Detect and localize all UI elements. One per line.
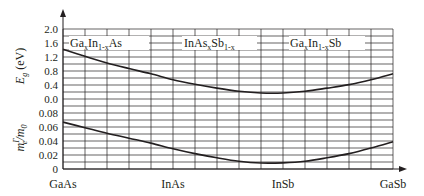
y-tick: 0.06: [39, 121, 59, 133]
x-label-gasb: GaSb: [380, 177, 407, 191]
x-label-gaas: GaAs: [49, 177, 77, 191]
y-tick: 0: [53, 163, 59, 175]
y-tick: 0.4: [44, 79, 58, 91]
y-tick: 0.02: [39, 149, 58, 161]
y-tick: 0.0: [44, 93, 58, 105]
y-tick: 0.08: [39, 107, 59, 119]
y-tick: 1.6: [44, 37, 58, 49]
band-gap-axis-title: Eg (eV): [13, 48, 29, 85]
band-structure-chart: 2.0 1.6 1.2 0.8 0.4 0.0 0.08 0.06 0.04 0…: [0, 0, 424, 196]
annotation-gainas: GaxIn1-xAs: [70, 36, 122, 52]
y-tick: 0.8: [44, 65, 58, 77]
y-tick: 0.04: [39, 135, 59, 147]
x-label-inas: InAs: [161, 177, 185, 191]
effective-mass-curve: [63, 122, 393, 163]
effective-mass-axis-title: mΓe/m0: [12, 125, 29, 152]
y-tick: 2.0: [44, 23, 58, 35]
y-tick: 1.2: [44, 51, 58, 63]
x-axis-arrow-icon: [399, 166, 407, 172]
x-label-insb: InSb: [272, 177, 295, 191]
annotation-gainsb: GaxIn1-xSb: [290, 36, 341, 52]
y-axis-arrow-icon: [60, 9, 66, 17]
